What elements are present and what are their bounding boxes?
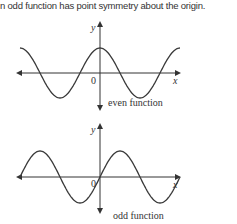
even-function-graph bbox=[19, 24, 180, 108]
odd-function-label: odd function bbox=[113, 210, 164, 221]
even-x-label: x bbox=[173, 75, 177, 86]
even-y-label: y bbox=[91, 22, 95, 33]
odd-x-label: x bbox=[173, 179, 177, 190]
even-function-label: even function bbox=[108, 97, 163, 108]
odd-y-label: y bbox=[91, 124, 95, 135]
function-graphs bbox=[0, 0, 237, 224]
odd-function-graph bbox=[19, 126, 180, 211]
even-origin-label: 0 bbox=[91, 75, 96, 86]
odd-origin-label: 0 bbox=[91, 178, 96, 189]
